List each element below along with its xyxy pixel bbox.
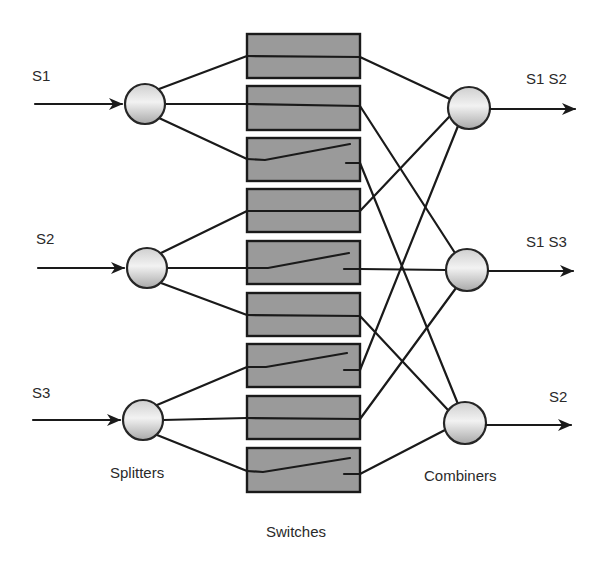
- input-label-s1: S1: [32, 67, 50, 84]
- splitter-node-s3: [123, 400, 163, 440]
- combiner-node-3: [444, 402, 486, 444]
- combiner-node-1: [448, 87, 490, 129]
- switch-1: [247, 34, 360, 78]
- switch-5: [247, 241, 360, 284]
- switch-4: [247, 189, 360, 232]
- splitters-label: Splitters: [110, 464, 164, 481]
- input-label-s2: S2: [36, 230, 54, 247]
- input-label-s3: S3: [32, 384, 50, 401]
- switch-array: [247, 34, 360, 492]
- splitter-wires: [157, 56, 247, 471]
- switch-3: [247, 138, 360, 181]
- output-label-3: S2: [549, 388, 567, 405]
- switch-network-diagram: S1 S2 S3: [0, 0, 604, 565]
- combiners-label: Combiners: [424, 467, 497, 484]
- combiner-wires: [360, 57, 458, 474]
- splitter-node-s1: [125, 84, 165, 124]
- switches-label: Switches: [266, 523, 326, 540]
- switch-2: [247, 86, 360, 130]
- splitter-node-s2: [127, 248, 167, 288]
- switch-6: [247, 293, 360, 336]
- combiner-node-2: [446, 249, 488, 291]
- switch-7: [247, 344, 360, 387]
- output-label-2: S1 S3: [526, 233, 567, 250]
- switch-8: [247, 396, 360, 439]
- output-label-1: S1 S2: [526, 70, 567, 87]
- switch-9: [247, 448, 360, 492]
